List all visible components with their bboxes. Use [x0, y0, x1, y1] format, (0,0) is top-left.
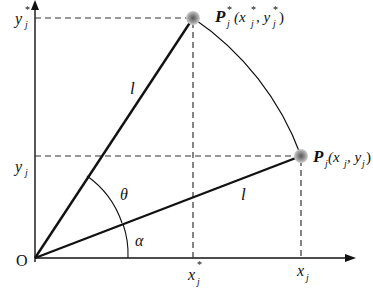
segment-op	[35, 156, 301, 258]
svg-text:*: *	[273, 4, 278, 15]
svg-text:): )	[366, 149, 371, 166]
svg-text:*: *	[197, 259, 202, 270]
y-axis	[31, 0, 39, 262]
svg-text:j: j	[195, 276, 200, 287]
segment-l-label-lower: l	[241, 185, 246, 204]
svg-text:, y: , y	[347, 149, 362, 165]
point-p-marker	[294, 149, 308, 163]
theta-arc	[87, 176, 122, 223]
svg-text:j: j	[225, 18, 230, 29]
y-axis-arrow-icon	[31, 0, 39, 10]
x-axis-arrow-icon	[345, 254, 356, 262]
svg-text:(x: (x	[328, 149, 340, 166]
svg-text:P: P	[312, 147, 324, 166]
rotation-arc	[193, 18, 301, 156]
rotation-diagram: O l l θ α y j * y j x j * x j P j * (x j…	[0, 0, 373, 290]
svg-text:(x: (x	[234, 9, 246, 26]
x-star-tick-label: x j *	[187, 259, 202, 287]
point-p-label: P j (x j , y j )	[312, 147, 371, 169]
svg-text:, y: , y	[256, 9, 271, 25]
theta-label: θ	[120, 186, 128, 203]
point-p-star-marker	[186, 11, 200, 25]
svg-text:x: x	[296, 262, 304, 279]
svg-text:j: j	[304, 272, 309, 283]
svg-text:j: j	[249, 18, 254, 29]
alpha-label: α	[135, 232, 144, 249]
segment-op-star	[35, 18, 193, 258]
origin-label: O	[16, 252, 28, 269]
x-tick-label: x j	[296, 262, 309, 283]
point-p-star-label: P j * (x j * , y j * )	[214, 4, 284, 29]
svg-text:j: j	[23, 167, 28, 178]
svg-text:*: *	[25, 4, 30, 15]
svg-text:y: y	[13, 10, 23, 28]
svg-text:x: x	[187, 266, 195, 283]
alpha-arc	[123, 224, 128, 258]
segment-l-label-upper: l	[130, 79, 135, 98]
svg-text:y: y	[13, 158, 23, 176]
svg-text:j: j	[23, 19, 28, 30]
svg-text:P: P	[214, 7, 226, 26]
x-axis	[35, 254, 356, 262]
svg-text:*: *	[227, 4, 232, 15]
svg-text:): )	[279, 9, 284, 26]
y-star-tick-label: y j *	[13, 4, 30, 30]
svg-text:j: j	[271, 18, 276, 29]
y-tick-label: y j	[13, 158, 28, 178]
